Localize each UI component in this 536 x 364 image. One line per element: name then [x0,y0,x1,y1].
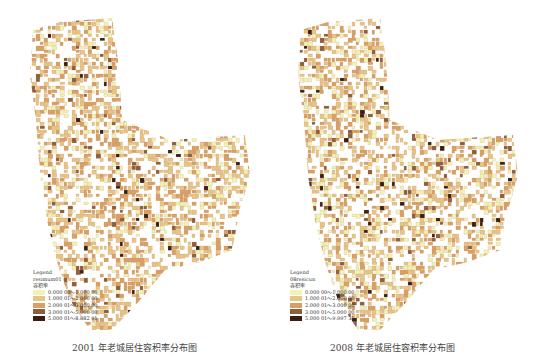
legend-class-label: 5.000 01～9.997 31 [305,315,355,322]
legend-swatch [290,290,302,295]
legend-class-label: 3.000 01～5.000 00 [305,309,355,316]
legend-swatch [33,309,45,314]
legend-2001: Legend resimum01 容积率 0.000 00～1.000 001.… [33,269,98,322]
legend-class-label: 2.000 01～3.000 00 [305,302,355,309]
legend-classes: 0.000 00～1.000 001.000 01～2.000 002.000 … [33,289,98,322]
legend-swatch [33,296,45,301]
legend-class: 5.000 01～8.882 91 [33,315,98,322]
legend-class-label: 1.000 01～2.000 00 [305,295,355,302]
legend-swatch [290,316,302,321]
legend-class-label: 0.000 00～1.000 00 [48,289,98,296]
map-caption-2008: 2008 年老城居住容积率分布图 [330,341,455,354]
map-panel-2008: Legend 08resicun 容积率 0.000 00～1.000 001.… [268,0,536,364]
legend-swatch [33,290,45,295]
legend-classes: 0.000 00～1.000 001.000 01～2.000 002.000 … [290,289,355,322]
legend-swatch [290,296,302,301]
legend-class: 0.000 00～1.000 00 [290,289,355,296]
legend-class-label: 5.000 01～8.882 91 [48,315,98,322]
map-caption-2001: 2001 年老城居住容积率分布图 [72,341,197,354]
legend-title: Legend [33,269,98,276]
legend-class-label: 1.000 01～2.000 00 [48,295,98,302]
legend-2008: Legend 08resicun 容积率 0.000 00～1.000 001.… [290,269,355,322]
legend-class-label: 0.000 00～1.000 00 [305,289,355,296]
legend-class: 3.000 01～5.000 00 [290,309,355,316]
map-panel-2001: Legend resimum01 容积率 0.000 00～1.000 001.… [0,0,268,364]
legend-class: 3.000 01～5.000 00 [33,309,98,316]
legend-swatch [33,303,45,308]
legend-class: 5.000 01～9.997 31 [290,315,355,322]
legend-class: 1.000 01～2.000 00 [33,295,98,302]
legend-class: 1.000 01～2.000 00 [290,295,355,302]
legend-layer: resimum01 [33,276,98,283]
legend-swatch [290,309,302,314]
legend-field: 容积率 [33,282,98,289]
legend-field: 容积率 [290,282,355,289]
legend-class-label: 2.000 01～3.000 00 [48,302,98,309]
legend-title: Legend [290,269,355,276]
legend-class: 2.000 01～3.000 00 [290,302,355,309]
legend-swatch [290,303,302,308]
legend-class: 2.000 01～3.000 00 [33,302,98,309]
legend-layer: 08resicun [290,276,355,283]
legend-class: 0.000 00～1.000 00 [33,289,98,296]
legend-class-label: 3.000 01～5.000 00 [48,309,98,316]
legend-swatch [33,316,45,321]
